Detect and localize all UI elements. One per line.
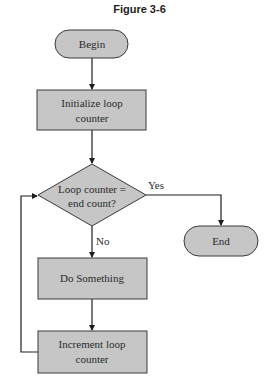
node-begin: Begin	[55, 30, 128, 58]
node-begin-label: Begin	[79, 38, 106, 50]
node-decision-line1: Loop counter =	[58, 183, 126, 195]
node-initialize: Initialize loop counter	[37, 90, 146, 130]
edge-no-label: No	[96, 235, 110, 247]
node-initialize-line2: counter	[76, 112, 109, 124]
edge-yes-label: Yes	[148, 179, 164, 191]
edge-increment-loop-back	[21, 196, 38, 352]
node-increment: Increment loop counter	[38, 331, 147, 373]
node-increment-line1: Increment loop	[59, 338, 126, 350]
node-decision-line2: end count?	[68, 197, 116, 209]
node-decision: Loop counter = end count?	[38, 164, 146, 226]
node-increment-line2: counter	[76, 353, 109, 365]
node-end-label: End	[212, 235, 230, 247]
node-end: End	[184, 226, 258, 256]
node-do-something-label: Do Something	[60, 272, 124, 284]
edge-decision-yes-to-end	[146, 195, 221, 225]
flowchart: Begin Initialize loop counter Loop count…	[0, 0, 279, 388]
node-do-something: Do Something	[38, 258, 147, 299]
node-initialize-line1: Initialize loop	[61, 97, 123, 109]
